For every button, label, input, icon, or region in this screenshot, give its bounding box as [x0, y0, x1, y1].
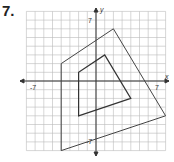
coordinate-graph: x y -7 7 7 -7 — [0, 0, 174, 162]
x-axis-label: x — [164, 73, 169, 80]
axes — [20, 8, 169, 156]
tick-neg-x: -7 — [30, 84, 36, 91]
tick-pos-x: 7 — [155, 84, 159, 91]
y-axis-label: y — [99, 6, 104, 14]
tick-pos-y: 7 — [88, 17, 92, 24]
